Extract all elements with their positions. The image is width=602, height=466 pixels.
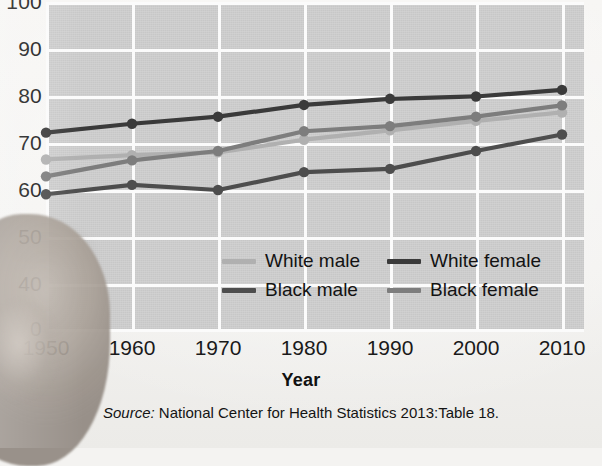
data-point [471, 111, 481, 121]
legend-label-black-female: Black female [430, 279, 539, 301]
data-point [41, 154, 51, 164]
data-point [213, 111, 223, 121]
data-point [213, 146, 223, 156]
x-axis-tick-labels: 1950196019701980199020002010 [46, 336, 584, 368]
legend-label-black-male: Black male [265, 279, 358, 301]
data-point [299, 100, 309, 110]
legend-swatch-black-female [387, 288, 421, 293]
data-point [127, 119, 137, 129]
legend-item-white-male: White male [222, 250, 371, 272]
y-axis-tick-labels: 1009080706050400 [0, 2, 42, 332]
source-note: Source: National Center for Health Stati… [0, 404, 602, 421]
data-point [557, 100, 567, 110]
x-axis-tick-1970: 1970 [176, 336, 260, 360]
x-axis-tick-1990: 1990 [348, 336, 432, 360]
data-point [385, 94, 395, 104]
y-axis-tick-80: 80 [0, 84, 42, 108]
data-point [299, 167, 309, 177]
legend-item-white-female: White female [387, 250, 552, 272]
data-point [385, 164, 395, 174]
legend-swatch-black-male [222, 288, 256, 293]
x-axis-tick-1980: 1980 [262, 336, 346, 360]
y-axis-tick-90: 90 [0, 37, 42, 61]
data-point [127, 180, 137, 190]
y-axis-tick-70: 70 [0, 131, 42, 155]
data-point [385, 121, 395, 131]
data-point [41, 189, 51, 199]
x-axis-tick-2000: 2000 [434, 336, 518, 360]
y-axis-tick-60: 60 [0, 178, 42, 202]
axis-break-icon [30, 287, 56, 313]
data-point [41, 127, 51, 137]
data-point [557, 85, 567, 95]
data-point [557, 129, 567, 139]
x-axis-title: Year [0, 370, 602, 391]
legend-swatch-white-female [387, 259, 421, 264]
x-axis-tick-2010: 2010 [520, 336, 602, 360]
chart-legend: White male White female Black male Black… [222, 250, 552, 301]
legend-item-black-male: Black male [222, 279, 371, 301]
source-text: National Center for Health Statistics 20… [159, 404, 499, 421]
source-prefix: Source: [103, 404, 155, 421]
data-point [41, 171, 51, 181]
y-axis-tick-50: 50 [0, 225, 42, 249]
x-axis-tick-1950: 1950 [4, 336, 88, 360]
legend-label-white-male: White male [265, 250, 360, 272]
data-point [471, 91, 481, 101]
legend-item-black-female: Black female [387, 279, 552, 301]
data-point [471, 146, 481, 156]
x-axis-tick-1960: 1960 [90, 336, 174, 360]
legend-swatch-white-male [222, 259, 256, 264]
legend-label-white-female: White female [430, 250, 541, 272]
data-point [127, 155, 137, 165]
data-point [299, 126, 309, 136]
y-axis-tick-100: 100 [0, 0, 42, 14]
data-point [213, 185, 223, 195]
